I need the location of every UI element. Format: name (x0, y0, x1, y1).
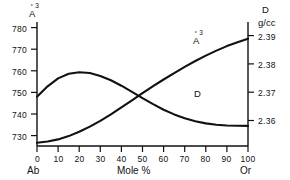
x-axis-left-endpoint-label: Ab (27, 165, 39, 176)
x-axis-ticks (37, 146, 248, 152)
x-axis-right-endpoint-label: Or (240, 165, 251, 176)
x-tick-label: 40 (115, 154, 128, 164)
density-curve (37, 72, 248, 126)
chart-figure: °A3 D g/cc 730 740 750 760 770 780 2.36 … (0, 0, 290, 180)
x-tick-label: 10 (52, 154, 65, 164)
angstrom-letter: A (193, 35, 199, 46)
x-tick-label: 0 (33, 154, 42, 164)
x-tick-label: 60 (157, 154, 170, 164)
density-curve-label: D (194, 88, 201, 99)
left-tick-label: 740 (2, 110, 27, 120)
angstrom-letter: A (29, 8, 35, 19)
left-tick-label: 780 (2, 24, 27, 34)
left-tick-label: 750 (2, 88, 27, 98)
left-axis-ticks (31, 28, 37, 136)
left-axis-title: °A3 (29, 8, 35, 19)
right-axis-unit: g/cc (258, 17, 275, 28)
x-tick-label: 100 (239, 154, 257, 164)
x-tick-label: 90 (220, 154, 233, 164)
volume-curve-label: °A3 (193, 35, 199, 46)
left-tick-label: 760 (2, 67, 27, 77)
left-tick-label: 730 (2, 132, 27, 142)
right-axis-title: D (262, 4, 269, 15)
x-tick-label: 30 (94, 154, 107, 164)
right-tick-label: 2.39 (258, 32, 276, 42)
right-axis-ticks (248, 36, 254, 121)
exponent-three: 3 (199, 30, 203, 36)
angstrom-cubed-symbol: °A3 (29, 8, 35, 19)
right-tick-label: 2.36 (258, 116, 276, 126)
volume-curve (37, 39, 248, 143)
ring-diacritic: ° (30, 3, 32, 9)
right-tick-label: 2.38 (258, 60, 276, 70)
x-axis-title: Mole % (117, 165, 150, 176)
angstrom-cubed-symbol: °A3 (193, 35, 199, 46)
x-tick-label: 20 (73, 154, 86, 164)
left-tick-label: 770 (2, 45, 27, 55)
x-tick-label: 50 (136, 154, 149, 164)
exponent-three: 3 (35, 3, 39, 9)
x-tick-label: 70 (178, 154, 191, 164)
ring-diacritic: ° (194, 30, 196, 36)
chart-canvas (0, 0, 290, 180)
right-tick-label: 2.37 (258, 88, 276, 98)
x-tick-label: 80 (199, 154, 212, 164)
